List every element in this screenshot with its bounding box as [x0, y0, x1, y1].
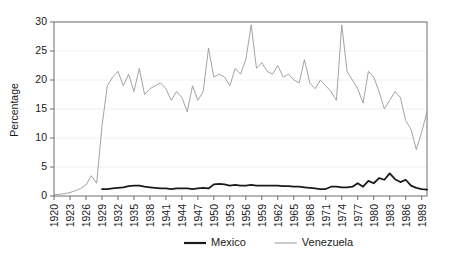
gridlines: [54, 22, 427, 167]
x-tick-label: 1977: [352, 204, 364, 228]
x-tick-label: 1965: [288, 204, 300, 228]
chart-figure: 051015202530 192019231926192919321935193…: [0, 0, 456, 259]
x-tick-label: 1950: [208, 204, 220, 228]
x-tick-label: 1959: [256, 204, 268, 228]
y-tick-label: 0: [41, 189, 47, 201]
x-tick-label: 1923: [64, 204, 76, 228]
x-tick-label: 1968: [304, 204, 316, 228]
x-tick-label: 1926: [80, 204, 92, 228]
x-tick-label: 1944: [176, 204, 188, 228]
x-tick-label: 1932: [112, 204, 124, 228]
y-tick-label: 10: [35, 131, 47, 143]
y-axis-ticks: 051015202530: [35, 15, 54, 201]
y-tick-label: 30: [35, 15, 47, 27]
y-tick-label: 15: [35, 102, 47, 114]
x-tick-label: 1929: [96, 204, 108, 228]
x-tick-label: 1956: [240, 204, 252, 228]
y-tick-label: 25: [35, 44, 47, 56]
chart-legend: MexicoVenezuela: [184, 236, 354, 248]
x-tick-label: 1989: [416, 204, 428, 228]
data-series: [54, 25, 427, 195]
y-tick-label: 5: [41, 160, 47, 172]
line-chart: 051015202530 192019231926192919321935193…: [0, 0, 456, 259]
x-tick-label: 1938: [144, 204, 156, 228]
x-tick-label: 1941: [160, 204, 172, 228]
x-tick-label: 1953: [224, 204, 236, 228]
y-axis-label: Percentage: [8, 83, 20, 137]
legend-label-mexico: Mexico: [211, 236, 246, 248]
x-tick-label: 1971: [320, 204, 332, 228]
x-tick-label: 1983: [384, 204, 396, 228]
x-tick-label: 1962: [272, 204, 284, 228]
y-tick-label: 20: [35, 73, 47, 85]
x-tick-label: 1935: [128, 204, 140, 228]
x-tick-label: 1986: [400, 204, 412, 228]
series-line-venezuela: [54, 25, 427, 195]
x-tick-label: 1947: [192, 204, 204, 228]
x-tick-label: 1974: [336, 204, 348, 228]
legend-label-venezuela: Venezuela: [302, 236, 354, 248]
x-tick-label: 1920: [48, 204, 60, 228]
x-axis-ticks: 1920192319261929193219351938194119441947…: [48, 196, 428, 227]
x-tick-label: 1980: [368, 204, 380, 228]
series-line-mexico: [102, 173, 427, 189]
